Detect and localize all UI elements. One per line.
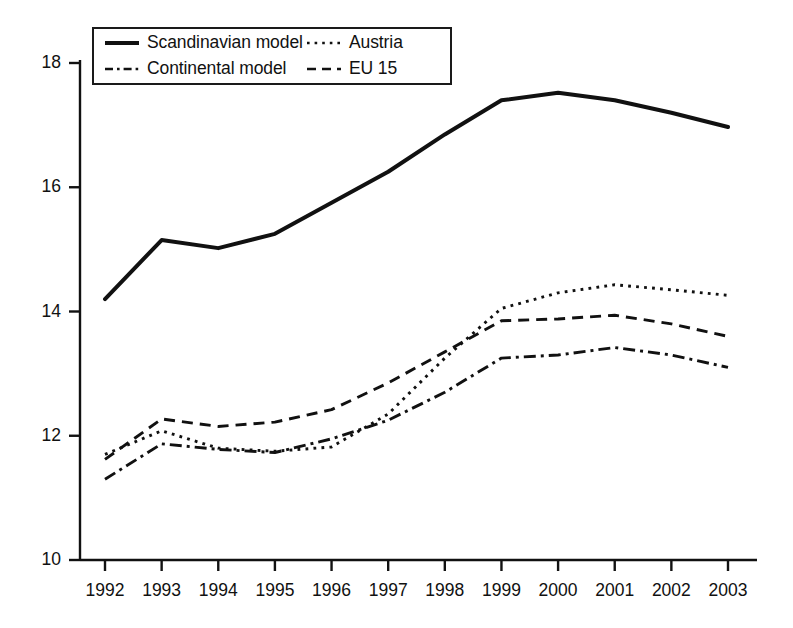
axes-group [69, 60, 757, 571]
series-line-austria [105, 285, 728, 455]
legend-item-eu-15: EU 15 [306, 60, 464, 78]
series-line-continental-model [105, 348, 728, 480]
series-line-scandinavian-model [105, 93, 728, 299]
legend-label-eu-15: EU 15 [349, 60, 397, 78]
legend-label-austria: Austria [349, 34, 403, 52]
legend-label-scandinavian-model: Scandinavian model [147, 34, 303, 52]
legend-item-scandinavian-model: Scandinavian model [104, 34, 306, 52]
legend-swatch-dashed-icon [306, 62, 342, 76]
legend-swatch-solid-icon [104, 36, 140, 50]
legend-item-austria: Austria [306, 34, 464, 52]
legend-item-continental-model: Continental model [104, 60, 306, 78]
legend-label-continental-model: Continental model [147, 60, 286, 78]
legend-swatch-dotted-icon [306, 36, 342, 50]
line-chart: 1012141618 19921993199419951996199719981… [0, 0, 793, 628]
legend-swatch-dash-dot-icon [104, 62, 140, 76]
chart-legend: Scandinavian model Austria Continental m… [92, 27, 452, 85]
y-axis-ticks [69, 63, 80, 560]
chart-canvas [0, 0, 793, 628]
x-axis-ticks [105, 560, 728, 571]
data-series-group [105, 93, 728, 479]
